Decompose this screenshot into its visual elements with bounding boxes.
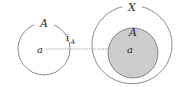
right-element-label: a (127, 44, 133, 55)
left-set-label: A (39, 17, 48, 30)
inner-set-label: A (128, 26, 137, 39)
left-element-label: a (37, 44, 43, 55)
left-set-boundary (18, 25, 70, 75)
outer-set-label: X (127, 1, 137, 14)
diagram-canvas: A a i A X A a (0, 0, 177, 87)
inclusion-map-label: i (66, 32, 69, 43)
inclusion-map-subscript: A (70, 38, 76, 46)
inclusion-map-diagram: A a i A X A a (0, 0, 177, 87)
